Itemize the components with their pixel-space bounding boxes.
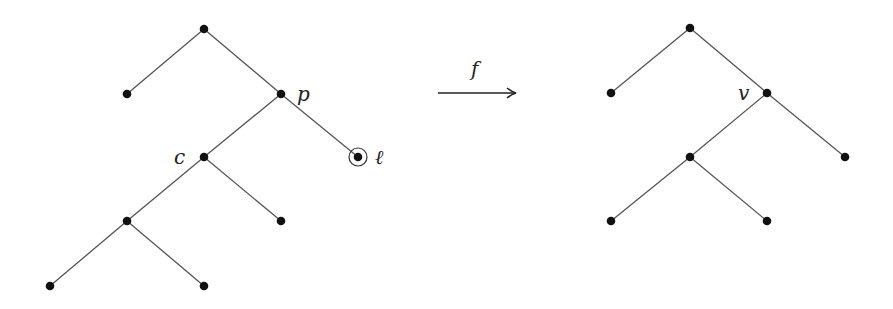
right-tree-edge — [611, 28, 690, 93]
left-tree-node — [277, 217, 286, 226]
right-tree-node — [686, 153, 695, 162]
left-tree-node — [123, 217, 132, 226]
left-tree-node-p — [277, 90, 286, 99]
left-tree-node — [200, 282, 209, 291]
right-tree-edge — [690, 93, 767, 157]
left-tree-node — [200, 25, 209, 34]
node-label-c: c — [174, 145, 185, 169]
right-tree-node — [607, 89, 616, 98]
right-tree-node — [607, 217, 616, 226]
node-label-p: p — [297, 82, 310, 106]
left-tree-edge — [127, 29, 204, 94]
left-tree-edge — [127, 157, 204, 221]
right-tree-node — [763, 217, 772, 226]
right-tree-node — [841, 153, 850, 162]
left-tree-node-c — [200, 153, 209, 162]
tree-transformation-diagram: pcℓ f v — [0, 0, 893, 309]
right-tree-edge — [611, 157, 690, 221]
left-tree-edge — [127, 221, 204, 286]
left-tree: pcℓ — [46, 25, 384, 291]
right-tree-edge — [690, 28, 767, 93]
node-label-v: v — [738, 81, 750, 105]
right-tree-node — [686, 24, 695, 33]
node-label-l: ℓ — [375, 145, 384, 169]
left-tree-node-l — [354, 153, 363, 162]
mapping-arrow-f: f — [438, 57, 516, 98]
left-tree-edge — [204, 29, 281, 94]
left-tree-edge — [281, 94, 358, 157]
arrow-label-f: f — [469, 57, 482, 81]
left-tree-edge — [204, 94, 281, 157]
right-tree-node-v — [763, 89, 772, 98]
right-tree-edge — [690, 157, 767, 221]
left-tree-edge — [204, 157, 281, 221]
left-tree-edge — [50, 221, 127, 286]
left-tree-node — [46, 282, 55, 291]
right-tree-edge — [767, 93, 845, 157]
right-tree: v — [607, 24, 850, 226]
left-tree-node — [123, 90, 132, 99]
